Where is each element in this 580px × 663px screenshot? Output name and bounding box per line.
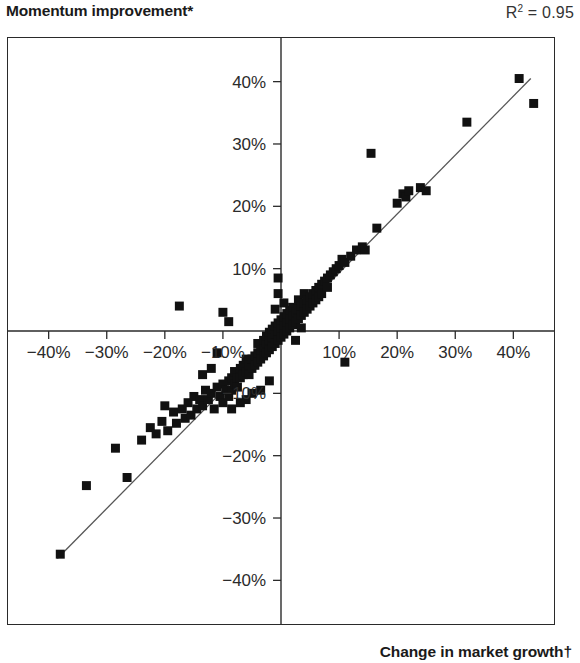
y-tick-label: −30%	[222, 509, 266, 528]
data-point	[169, 408, 178, 417]
x-tick-label: 40%	[496, 343, 530, 362]
r-squared-value: = 0.95	[528, 4, 574, 21]
x-tick-label: −40%	[27, 343, 71, 362]
data-point	[271, 305, 280, 314]
y-tick-label: −20%	[222, 447, 266, 466]
x-tick-label: 10%	[322, 343, 356, 362]
x-tick-label: −20%	[143, 343, 187, 362]
data-point	[274, 289, 283, 298]
page-title: Momentum improvement*	[6, 2, 193, 20]
data-point	[207, 364, 216, 373]
chart-root: Momentum improvement* R2 = 0.95 −40%−30%…	[0, 0, 580, 663]
plot-area: −40%−30%−20%−10%10%20%30%40%−40%−30%−20%…	[7, 37, 555, 625]
data-point	[160, 401, 169, 410]
y-tick-label: −40%	[222, 571, 266, 590]
data-point	[291, 336, 300, 345]
data-point	[218, 308, 227, 317]
data-point	[152, 429, 161, 438]
data-point	[372, 224, 381, 233]
y-tick-label: 40%	[232, 73, 266, 92]
data-point	[529, 99, 538, 108]
y-tick-label: 30%	[232, 135, 266, 154]
scatter-plot-svg: −40%−30%−20%−10%10%20%30%40%−40%−30%−20%…	[8, 38, 554, 624]
data-point	[56, 550, 65, 559]
data-point	[297, 323, 306, 332]
data-point	[227, 404, 236, 413]
data-point	[422, 186, 431, 195]
x-tick-label: −30%	[85, 343, 129, 362]
data-point	[198, 370, 207, 379]
data-point	[404, 186, 413, 195]
data-point	[82, 481, 91, 490]
data-point	[367, 149, 376, 158]
y-tick-label: 20%	[232, 197, 266, 216]
data-point	[163, 426, 172, 435]
data-point	[137, 436, 146, 445]
y-tick-label: −10%	[222, 384, 266, 403]
x-tick-label: −10%	[201, 343, 245, 362]
data-point	[274, 274, 283, 283]
data-point	[157, 417, 166, 426]
r-squared-exponent: 2	[517, 3, 523, 14]
data-point	[172, 419, 181, 428]
data-point	[323, 283, 332, 292]
x-axis-title: Change in market growth†	[380, 643, 572, 661]
data-point	[210, 404, 219, 413]
data-point	[515, 74, 524, 83]
data-point	[123, 473, 132, 482]
data-point	[265, 376, 274, 385]
data-point	[462, 118, 471, 127]
x-tick-label: 30%	[438, 343, 472, 362]
chart-header: Momentum improvement* R2 = 0.95	[6, 2, 574, 32]
x-tick-label: 20%	[380, 343, 414, 362]
data-point	[361, 245, 370, 254]
r-squared-base: R	[506, 4, 518, 21]
r-squared-annotation: R2 = 0.95	[506, 3, 574, 22]
y-tick-label: 10%	[232, 260, 266, 279]
data-point	[111, 444, 120, 453]
data-point	[279, 298, 288, 307]
data-point	[175, 302, 184, 311]
data-point	[393, 199, 402, 208]
data-point	[224, 317, 233, 326]
